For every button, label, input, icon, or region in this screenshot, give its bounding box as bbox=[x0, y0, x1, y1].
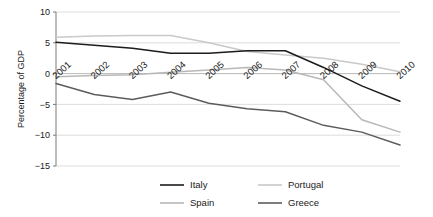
x-tick-label-2004: 2004 bbox=[165, 59, 188, 81]
series-line-spain bbox=[56, 67, 400, 132]
y-tick-labels: 1050−5−10−15 bbox=[35, 7, 56, 171]
legend-label-italy: Italy bbox=[190, 179, 208, 190]
x-tick-labels: 2001200220032004200520062007200820092010 bbox=[50, 59, 417, 81]
legend-label-spain: Spain bbox=[190, 197, 214, 208]
x-tick-label-2008: 2008 bbox=[318, 59, 341, 81]
y-tick-label--15: −15 bbox=[35, 161, 50, 171]
x-tick-label-2009: 2009 bbox=[356, 59, 379, 81]
x-tick-label-2006: 2006 bbox=[241, 59, 264, 81]
chart-legend: ItalyPortugalSpainGreece bbox=[160, 179, 323, 208]
x-tick-label-2010: 2010 bbox=[394, 59, 417, 81]
series-line-greece bbox=[56, 83, 400, 145]
y-tick-label-0: 0 bbox=[45, 69, 50, 79]
line-chart: 1050−5−10−15 200120022003200420052006200… bbox=[0, 0, 433, 217]
series-line-italy bbox=[56, 42, 400, 101]
y-tick-label--5: −5 bbox=[40, 100, 50, 110]
y-tick-label--10: −10 bbox=[35, 130, 50, 140]
x-tick-label-2005: 2005 bbox=[203, 59, 226, 81]
y-axis-title-text: Percentage of GDP bbox=[16, 50, 26, 128]
x-tick-label-2002: 2002 bbox=[88, 59, 111, 81]
y-tick-label-10: 10 bbox=[40, 7, 50, 17]
chart-container: 1050−5−10−15 200120022003200420052006200… bbox=[0, 0, 433, 217]
legend-label-greece: Greece bbox=[288, 197, 319, 208]
data-series bbox=[56, 35, 400, 145]
y-axis-title: Percentage of GDP bbox=[16, 50, 26, 128]
x-tick-label-2007: 2007 bbox=[279, 59, 302, 81]
y-tick-label-5: 5 bbox=[45, 38, 50, 48]
legend-label-portugal: Portugal bbox=[288, 179, 323, 190]
x-tick-label-2001: 2001 bbox=[50, 59, 73, 81]
x-tick-label-2003: 2003 bbox=[126, 59, 149, 81]
